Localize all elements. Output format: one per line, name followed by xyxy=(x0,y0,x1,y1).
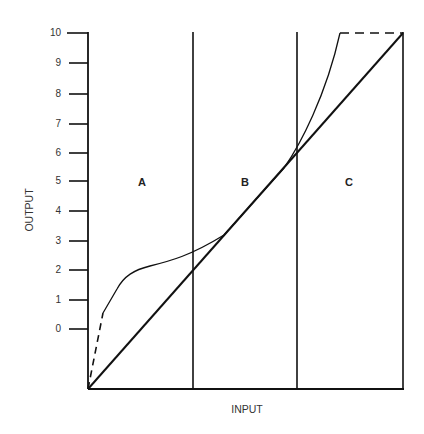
tick-label-6: 6 xyxy=(55,147,61,158)
tick-label-4: 4 xyxy=(55,205,61,216)
tick-label-9: 9 xyxy=(55,57,61,68)
y-axis-title: OUTPUT xyxy=(23,188,35,232)
tick-label-3: 3 xyxy=(55,235,61,246)
response-curve xyxy=(103,33,340,313)
region-label-b: B xyxy=(241,176,249,188)
tick-label-8: 8 xyxy=(55,88,61,99)
tick-label-0: 0 xyxy=(55,323,61,334)
chart: 10 9 8 7 6 5 4 3 2 1 0 OUTPUT INPUT A B … xyxy=(0,0,424,434)
response-curve-dashed-start xyxy=(88,313,103,389)
x-axis-title: INPUT xyxy=(231,403,263,415)
tick-label-7: 7 xyxy=(55,118,61,129)
y-ticks xyxy=(67,33,88,329)
region-label-a: A xyxy=(138,176,146,188)
tick-label-1: 1 xyxy=(55,294,61,305)
region-label-c: C xyxy=(345,176,353,188)
tick-label-5: 5 xyxy=(55,175,61,186)
y-tick-labels: 10 9 8 7 6 5 4 3 2 1 0 xyxy=(50,27,62,334)
tick-label-10: 10 xyxy=(50,27,62,38)
tick-label-2: 2 xyxy=(55,264,61,275)
